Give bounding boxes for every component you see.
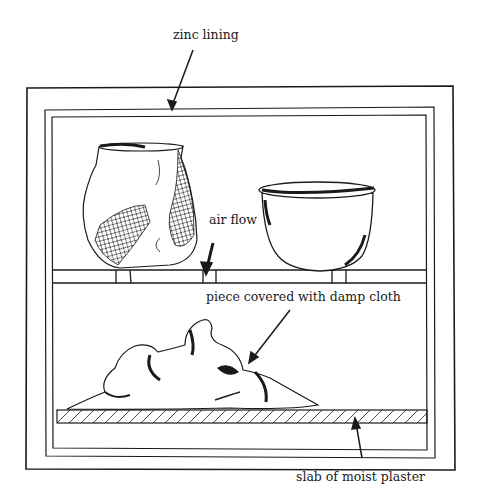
jar-icon: [83, 143, 197, 268]
label-air-flow: air flow: [209, 212, 257, 227]
piece-covered-arrow: [252, 310, 290, 359]
draped-cloth-icon: [67, 320, 318, 410]
label-plaster-slab: slab of moist plaster: [296, 469, 425, 484]
humidity-chamber-diagram: [0, 0, 479, 503]
zinc-lining-arrow: [172, 50, 193, 106]
label-piece-covered: piece covered with damp cloth: [206, 289, 401, 304]
shelf: [53, 270, 426, 283]
plaster-slab: [57, 410, 427, 423]
label-zinc-lining: zinc lining: [173, 27, 239, 42]
bowl-icon: [259, 182, 375, 271]
